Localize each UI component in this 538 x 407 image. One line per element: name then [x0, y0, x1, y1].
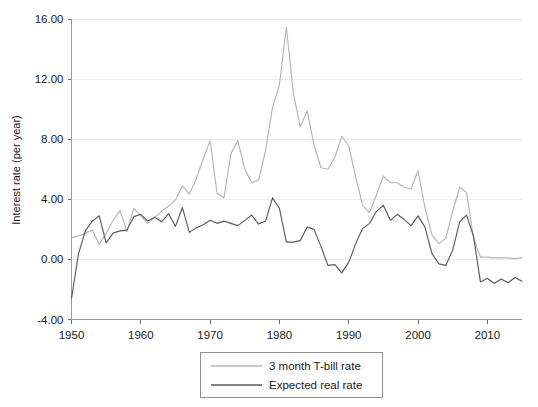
x-tick-label: 1960	[128, 329, 154, 341]
y-axis-title: Interest rate (per year)	[10, 115, 22, 224]
x-tick-labels-group: 1950196019701980199020002010	[59, 329, 500, 341]
series-line-2	[72, 198, 523, 299]
legend-label-1: 3 month T-bill rate	[269, 360, 361, 372]
y-tick-label: 16.00	[35, 13, 64, 25]
data-series-group	[72, 27, 523, 298]
x-tick-label: 1990	[336, 329, 362, 341]
series-line-1	[72, 27, 523, 258]
legend-label-2: Expected real rate	[269, 379, 362, 391]
line-chart: -4.000.004.008.0012.0016.00 195019601970…	[0, 0, 538, 407]
y-tick-label: 12.00	[35, 73, 64, 85]
x-tick-label: 2010	[475, 329, 501, 341]
y-tick-label: 0.00	[41, 253, 63, 265]
x-tick-label: 1950	[59, 329, 85, 341]
x-tick-label: 2000	[405, 329, 431, 341]
x-tick-label: 1970	[197, 329, 223, 341]
y-tickmarks-group	[68, 19, 72, 320]
x-tickmarks-group	[72, 320, 488, 324]
y-tick-label: -4.00	[37, 314, 63, 326]
gridlines-group	[72, 19, 523, 320]
y-tick-labels-group: -4.000.004.008.0012.0016.00	[35, 13, 64, 326]
chart-figure: -4.000.004.008.0012.0016.00 195019601970…	[0, 0, 538, 407]
y-tick-label: 8.00	[41, 133, 63, 145]
x-tick-label: 1980	[267, 329, 293, 341]
y-tick-label: 4.00	[41, 193, 63, 205]
chart-legend: 3 month T-bill rateExpected real rate	[200, 352, 382, 397]
